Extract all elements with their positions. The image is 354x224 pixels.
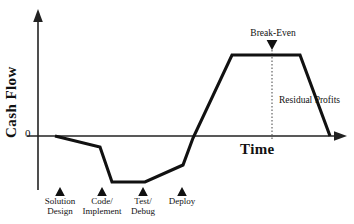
residual-profits-line-1: Residual bbox=[279, 95, 312, 105]
milestone-marker-test-debug bbox=[138, 187, 148, 196]
milestone-label-line-1: Deploy bbox=[145, 196, 219, 206]
y-axis-arrowhead-icon bbox=[33, 9, 43, 22]
cash-flow-curve bbox=[55, 55, 330, 182]
residual-profits-line-2: Profits bbox=[315, 95, 340, 105]
y-axis-title: Cash Flow bbox=[4, 68, 20, 138]
x-axis-arrowhead-icon bbox=[334, 131, 347, 141]
zero-tick-label: 0 bbox=[25, 128, 31, 140]
milestone-marker-code-implement bbox=[97, 187, 107, 196]
cash-flow-diagram: Cash Flow Time 0 Break-Even Residual Pro… bbox=[0, 0, 354, 224]
milestone-marker-solution-design bbox=[55, 187, 65, 196]
x-axis-title: Time bbox=[240, 142, 275, 158]
milestone-label-line-2: Debug bbox=[106, 206, 180, 216]
residual-profits-label: Residual Profits bbox=[279, 96, 325, 106]
milestone-label-deploy: Deploy bbox=[145, 196, 219, 206]
break-even-arrow-icon bbox=[267, 40, 278, 50]
milestone-marker-deploy bbox=[177, 187, 187, 196]
break-even-label: Break-Even bbox=[240, 29, 306, 39]
